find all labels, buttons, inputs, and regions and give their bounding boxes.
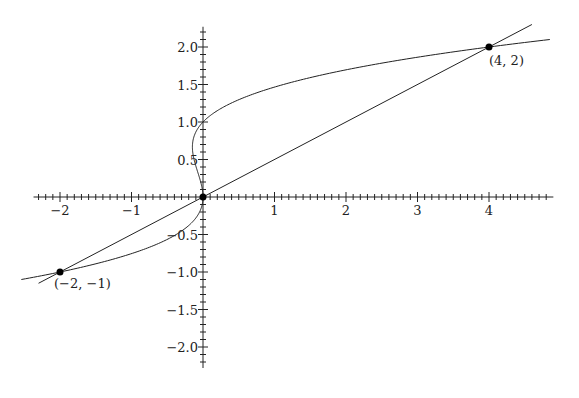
y-tick-label: −1.0 bbox=[166, 265, 198, 280]
x-tick-label: −1 bbox=[122, 203, 141, 218]
data-point bbox=[57, 269, 64, 276]
x-tick-label: 4 bbox=[485, 203, 493, 218]
curve-series bbox=[21, 40, 550, 280]
x-tick-label: −2 bbox=[50, 203, 69, 218]
data-point bbox=[200, 194, 207, 201]
y-tick-label: 0.5 bbox=[177, 153, 198, 168]
x-tick-label: 1 bbox=[270, 203, 278, 218]
point-label-4-2: (4, 2) bbox=[489, 53, 524, 68]
axes bbox=[34, 27, 554, 368]
y-tick-label: −2.0 bbox=[166, 340, 198, 355]
data-point bbox=[486, 44, 493, 51]
y-tick-label: 1.0 bbox=[177, 115, 198, 130]
y-tick-label: −1.5 bbox=[166, 303, 198, 318]
line-series bbox=[39, 25, 532, 284]
x-tick-label: 2 bbox=[342, 203, 350, 218]
x-tick-label: 3 bbox=[413, 203, 421, 218]
y-tick-label: 1.5 bbox=[177, 78, 198, 93]
chart: −2−112342.01.51.00.5−0.5−1.0−1.5−2.0 (−2… bbox=[0, 0, 579, 398]
y-tick-label: −0.5 bbox=[166, 228, 198, 243]
y-tick-label: 2.0 bbox=[177, 40, 198, 55]
point-label-neg2-neg1: (−2, −1) bbox=[54, 276, 111, 291]
